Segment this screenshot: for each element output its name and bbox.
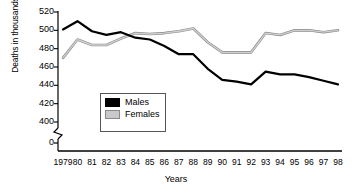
x-tick-label: 93 <box>259 158 273 167</box>
x-tick-label: 87 <box>172 158 186 167</box>
x-tick-label: 84 <box>128 158 142 167</box>
x-axis-title: Years <box>0 174 352 184</box>
x-tick-label: 83 <box>114 158 128 167</box>
x-tick-label: 92 <box>244 158 258 167</box>
x-tick-label: 86 <box>157 158 171 167</box>
legend-item-males: Males <box>105 98 162 107</box>
x-tick-label: 95 <box>288 158 302 167</box>
x-tick-label: 96 <box>302 158 316 167</box>
x-tick-label: 80 <box>70 158 84 167</box>
x-tick-label: 88 <box>186 158 200 167</box>
x-tick-label: 98 <box>331 158 345 167</box>
x-tick-label: 85 <box>143 158 157 167</box>
line-chart: Deaths in thousands 52050048046044042040… <box>0 0 352 193</box>
x-tick-label: 97 <box>317 158 331 167</box>
y-axis-break <box>54 128 62 139</box>
x-tick-label: 82 <box>99 158 113 167</box>
legend-item-females: Females <box>105 110 162 119</box>
chart-legend: Males Females <box>100 93 166 132</box>
x-tick-label: 89 <box>201 158 215 167</box>
legend-swatch-females <box>105 110 120 119</box>
series-line-females <box>63 29 338 58</box>
x-tick-label: 81 <box>85 158 99 167</box>
x-tick-label: 94 <box>273 158 287 167</box>
x-tick-label: 90 <box>215 158 229 167</box>
legend-label-males: Males <box>125 98 149 107</box>
series-line-females-outline <box>63 29 338 58</box>
legend-label-females: Females <box>125 110 160 119</box>
x-tick-label: 91 <box>230 158 244 167</box>
legend-swatch-males <box>105 98 120 107</box>
